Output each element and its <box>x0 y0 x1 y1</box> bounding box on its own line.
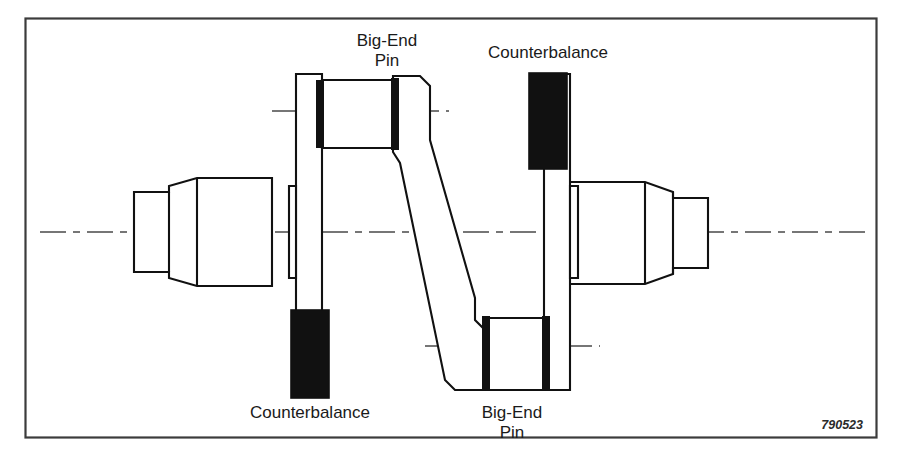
top-big-end-pin-label-line2: Pin <box>375 51 400 70</box>
lower-pin-left-fillet <box>482 316 490 390</box>
center-diagonal-web <box>393 76 487 390</box>
figure-root: Big-End Pin Counterbalance Counterbalanc… <box>0 0 903 465</box>
lower-big-end-pin <box>487 318 544 390</box>
right-web-hub-notch <box>570 186 578 278</box>
upper-pin-right-fillet <box>391 78 399 150</box>
figure-id-code: 790523 <box>821 418 863 432</box>
left-main-journal <box>134 178 272 286</box>
upper-pin-left-fillet <box>316 80 324 148</box>
bottom-big-end-pin-label-line2: Pin <box>500 423 525 442</box>
bottom-big-end-pin-label-line1: Big-End <box>482 403 542 422</box>
upper-big-end-pin <box>322 80 393 148</box>
crankshaft-diagram-canvas: Big-End Pin Counterbalance Counterbalanc… <box>0 0 903 465</box>
left-web-hub-notch <box>289 186 296 278</box>
bottom-counterbalance-label: Counterbalance <box>250 403 370 422</box>
lower-counterbalance-weight <box>291 310 329 398</box>
top-big-end-pin-label-line1: Big-End <box>357 31 417 50</box>
lower-pin-right-fillet <box>542 316 550 390</box>
top-counterbalance-label: Counterbalance <box>488 43 608 62</box>
right-main-journal <box>569 182 708 284</box>
upper-counterbalance-weight <box>529 73 567 169</box>
